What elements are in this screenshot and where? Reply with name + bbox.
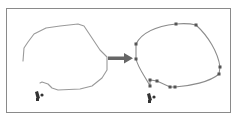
freehand-path	[23, 24, 107, 90]
arrow-icon	[108, 53, 133, 64]
anchor-point[interactable]	[195, 24, 198, 27]
pen-cursor-icon	[35, 91, 44, 101]
pen-cursor-icon	[147, 93, 156, 103]
anchor-point[interactable]	[149, 85, 152, 88]
diagram-canvas	[0, 0, 239, 121]
anchored-path	[136, 24, 220, 87]
anchor-point[interactable]	[156, 80, 159, 83]
anchor-point[interactable]	[135, 58, 138, 61]
anchor-point[interactable]	[135, 43, 138, 46]
anchor-point[interactable]	[218, 73, 221, 76]
anchor-point[interactable]	[149, 79, 152, 82]
anchor-point[interactable]	[174, 86, 177, 89]
anchor-point[interactable]	[219, 66, 222, 69]
anchor-point[interactable]	[169, 86, 172, 89]
anchor-point[interactable]	[175, 23, 178, 26]
